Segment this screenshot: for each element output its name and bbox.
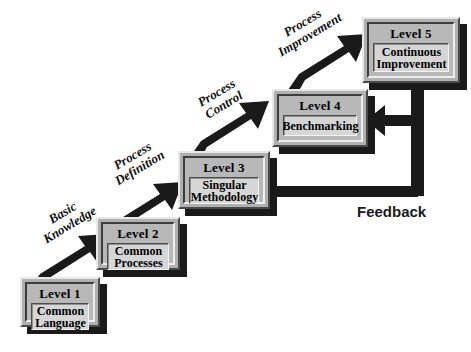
level-1-title: Level 1 <box>31 287 89 301</box>
feedback-trunk <box>411 88 424 196</box>
level-4-title: Level 4 <box>283 99 357 113</box>
level-2-description: Common Processes <box>114 245 162 269</box>
level-box-level-4[interactable]: Level 4 Benchmarking <box>272 89 368 147</box>
transition-label-process-definition: Process Definition <box>91 127 180 196</box>
level-box-level-5[interactable]: Level 5 Continuous Improvement <box>362 17 460 83</box>
maturity-model-diagram: Level 1 Common Language Level 2 Common P… <box>0 0 471 352</box>
level-3-panel: Singular Methodology <box>189 177 259 204</box>
level-1-panel: Common Language <box>31 303 89 330</box>
level-4-panel: Benchmarking <box>283 115 357 136</box>
level-1-description: Common Language <box>35 305 86 329</box>
level-5-title: Level 5 <box>373 27 449 41</box>
level-5-panel: Continuous Improvement <box>373 43 449 72</box>
feedback-label: Feedback <box>357 203 426 220</box>
transition-label-process-control: Process Control <box>176 65 264 133</box>
level-4-description: Benchmarking <box>283 120 359 132</box>
level-box-level-1[interactable]: Level 1 Common Language <box>20 277 100 327</box>
level-2-panel: Common Processes <box>107 243 169 270</box>
level-3-title: Level 3 <box>189 161 259 175</box>
level-box-level-3[interactable]: Level 3 Singular Methodology <box>178 151 270 209</box>
level-3-description: Singular Methodology <box>191 179 258 203</box>
level-2-title: Level 2 <box>107 227 169 241</box>
level-5-description: Continuous Improvement <box>377 46 447 70</box>
level-box-level-2[interactable]: Level 2 Common Processes <box>96 217 180 270</box>
transition-label-process-improvement: Process Improvement <box>256 0 356 66</box>
